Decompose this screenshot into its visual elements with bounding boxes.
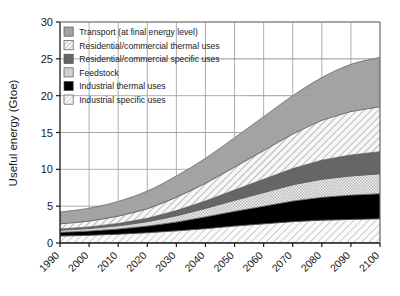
legend-item: Feedstock xyxy=(64,68,120,78)
y-tick-label: 5 xyxy=(47,200,53,212)
legend-label: Feedstock xyxy=(79,68,119,78)
legend-label: Residential/commercial thermal uses xyxy=(79,41,219,51)
y-tick-label: 10 xyxy=(41,163,53,175)
legend-item: Residential/commercial thermal uses xyxy=(64,41,220,51)
legend-item: Residential/commercial specific uses xyxy=(64,54,220,64)
y-tick-label: 25 xyxy=(41,53,53,65)
chart-figure: 051015202530 199020002010202020302040205… xyxy=(0,0,400,296)
legend-label: Transport (at final energy level) xyxy=(79,27,198,37)
legend-swatch xyxy=(64,41,73,50)
stacked-area-chart: 051015202530 199020002010202020302040205… xyxy=(0,0,400,296)
legend-label: Industrial thermal uses xyxy=(79,81,165,91)
legend-item: Industrial thermal uses xyxy=(64,81,166,91)
legend-label: Residential/commercial specific uses xyxy=(79,54,219,64)
y-tick-label: 20 xyxy=(41,90,53,102)
y-axis-title: Useful energy (Gtoe) xyxy=(7,79,19,186)
y-tick-label: 30 xyxy=(41,16,53,28)
y-tick-label: 0 xyxy=(47,237,53,249)
legend-swatch xyxy=(64,54,73,63)
legend-swatch xyxy=(64,27,73,36)
legend-swatch xyxy=(64,95,73,104)
legend-swatch xyxy=(64,68,73,77)
legend-item: Transport (at final energy level) xyxy=(64,27,198,37)
legend-item: Industrial specific uses xyxy=(64,95,166,105)
legend-label: Industrial specific uses xyxy=(79,95,165,105)
legend-swatch xyxy=(64,81,73,90)
y-tick-label: 15 xyxy=(41,127,53,139)
